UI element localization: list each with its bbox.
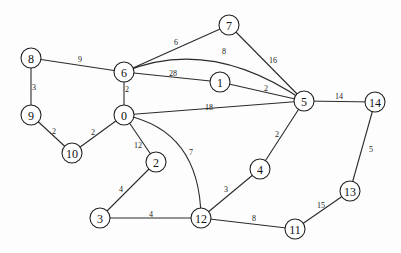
edge-12-11	[201, 218, 295, 229]
edge-weight-3-12: 4	[149, 210, 153, 219]
nodes-layer: 01234567891011121314	[21, 15, 385, 239]
edge-weight-13-11: 15	[317, 201, 325, 210]
edge-weight-7-5: 16	[269, 56, 277, 65]
edge-weight-0-10: 2	[91, 128, 95, 137]
node-4: 4	[250, 159, 270, 179]
edge-5-14	[304, 101, 375, 102]
edge-weight-0-2: 12	[134, 141, 142, 150]
edge-weight-8-9: 3	[32, 83, 36, 92]
edge-weight-5-4: 2	[275, 130, 279, 139]
node-14: 14	[365, 92, 385, 112]
graph-diagram: 936828216218142515837124422 012345678910…	[0, 0, 401, 253]
edge-weight-12-11: 8	[252, 214, 256, 223]
node-label: 1	[217, 76, 223, 90]
edge-weight-6-1: 28	[169, 69, 177, 78]
node-13: 13	[340, 181, 360, 201]
edge-weight-5-14: 14	[335, 92, 343, 101]
node-10: 10	[62, 143, 82, 163]
edge-4-12	[201, 169, 260, 218]
node-label: 7	[226, 19, 232, 33]
node-9: 9	[21, 105, 41, 125]
node-label: 12	[195, 212, 207, 226]
node-label: 0	[121, 109, 127, 123]
weights-layer: 936828216218142515837124422	[32, 38, 373, 223]
node-label: 9	[28, 109, 34, 123]
node-label: 8	[28, 52, 34, 66]
edge-5-4	[260, 101, 304, 169]
edge-2-3	[100, 162, 156, 218]
edge-weight-6-0: 2	[125, 85, 129, 94]
edge-weight-8-6: 9	[78, 55, 82, 64]
node-label: 2	[153, 156, 159, 170]
node-label: 3	[97, 212, 103, 226]
edge-weight-1-5: 2	[264, 84, 268, 93]
node-1: 1	[210, 72, 230, 92]
node-3: 3	[90, 208, 110, 228]
node-label: 11	[289, 223, 301, 237]
node-12: 12	[191, 208, 211, 228]
edges-layer	[31, 25, 375, 229]
edge-weight-6-5: 8	[222, 47, 226, 56]
node-11: 11	[285, 219, 305, 239]
node-5: 5	[294, 91, 314, 111]
edge-weight-14-13: 5	[369, 145, 373, 154]
node-8: 8	[21, 48, 41, 68]
node-label: 10	[66, 147, 78, 161]
node-6: 6	[114, 62, 134, 82]
edge-1-5	[220, 82, 304, 101]
node-0: 0	[114, 105, 134, 125]
node-label: 6	[121, 66, 127, 80]
node-label: 14	[369, 96, 381, 110]
edge-weight-4-12: 3	[224, 185, 228, 194]
edge-weight-9-10: 2	[52, 127, 56, 136]
edge-6-7	[124, 25, 229, 72]
edge-weight-0-12: 7	[189, 148, 193, 157]
node-2: 2	[146, 152, 166, 172]
node-label: 5	[301, 95, 307, 109]
edge-weight-6-7: 6	[174, 38, 178, 47]
node-7: 7	[219, 15, 239, 35]
node-label: 4	[257, 163, 263, 177]
edge-0-5	[124, 101, 304, 115]
edge-weight-0-5: 18	[205, 103, 213, 112]
node-label: 13	[344, 185, 356, 199]
graph-canvas: 936828216218142515837124422 012345678910…	[0, 0, 401, 253]
edge-weight-2-3: 4	[119, 185, 123, 194]
